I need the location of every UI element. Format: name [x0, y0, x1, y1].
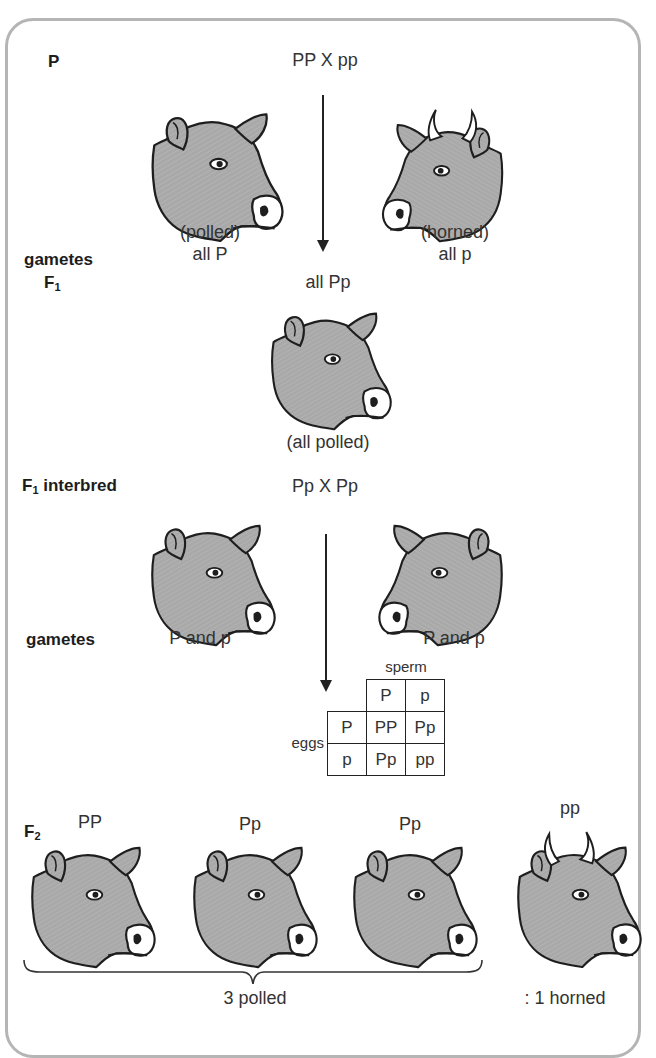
punnett-cell: PP	[366, 711, 406, 744]
f1-genotype: all Pp	[268, 272, 388, 293]
brace-polled-group	[22, 958, 484, 988]
punnett-cell: Pp	[366, 743, 406, 776]
punnett-row-header: P	[327, 711, 367, 744]
parent-right-phenotype: (horned)	[395, 222, 515, 243]
label-parents: P	[48, 52, 59, 72]
punnett-col-header: p	[405, 679, 445, 712]
label-gametes-1: gametes	[24, 250, 93, 270]
punnett-col-header: P	[366, 679, 406, 712]
f2-genotype-3: Pp	[370, 814, 450, 835]
punnett-cell: Pp	[405, 711, 445, 744]
f1-left-gametes: P and p	[140, 628, 260, 649]
f2-genotype-1: PP	[50, 812, 130, 833]
f1-phenotype: (all polled)	[258, 432, 398, 453]
cross-1-title: PP X pp	[265, 50, 385, 71]
punnett-cell: pp	[405, 743, 445, 776]
f2-genotype-2: Pp	[210, 814, 290, 835]
parent-left-gametes: all P	[150, 244, 270, 265]
label-f1: F1	[44, 273, 61, 293]
ratio-polled: 3 polled	[180, 988, 330, 1009]
cropped-text-fragment	[0, 0, 5, 14]
cow-f2-pp-hetero-1-icon	[188, 840, 320, 972]
cross-2-title: Pp X Pp	[270, 476, 380, 497]
cow-f2-pp-hetero-2-icon	[348, 840, 480, 972]
cow-f1-icon	[266, 306, 394, 434]
punnett-sperm-label: sperm	[366, 658, 446, 675]
ratio-horned: : 1 horned	[500, 988, 630, 1009]
f1-right-gametes: P and p	[394, 628, 514, 649]
punnett-eggs-label: eggs	[272, 734, 324, 751]
parent-right-gametes: all p	[395, 244, 515, 265]
cow-f2-pp-dominant-icon	[26, 840, 158, 972]
cow-f2-horned-icon	[512, 826, 644, 972]
punnett-row-header: p	[327, 743, 367, 776]
arrow-down-2-icon	[325, 534, 327, 690]
label-gametes-2: gametes	[26, 630, 95, 650]
arrow-down-1-icon	[322, 95, 324, 250]
label-f1-interbred: F1 interbred	[22, 476, 117, 496]
label-f2: F2	[24, 822, 41, 842]
parent-left-phenotype: (polled)	[150, 222, 270, 243]
f2-genotype-4: pp	[530, 798, 610, 819]
